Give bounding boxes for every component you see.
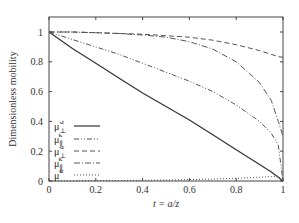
x-tick-label: 0.2 xyxy=(90,184,103,195)
legend-item: μ̃tr xyxy=(54,167,100,181)
y-tick-label: 0.2 xyxy=(31,146,44,157)
series-line-2 xyxy=(49,32,283,57)
series-line-4 xyxy=(49,176,283,181)
y-tick-labels: 00.20.40.60.81 xyxy=(31,27,44,187)
y-axis-label: Dimensionless mobility xyxy=(7,51,18,146)
x-tick-label: 1 xyxy=(281,184,286,195)
x-tick-label: 0.6 xyxy=(183,184,196,195)
y-tick-label: 0 xyxy=(38,176,43,187)
y-tick-label: 0.6 xyxy=(31,86,44,97)
x-axis-label: t = a/z xyxy=(153,198,179,209)
legend: μ̃⊥tμ̃∥tμ̃⊥rμ̃∥rμ̃tr xyxy=(54,118,100,181)
axis-ticks xyxy=(49,17,283,181)
mobility-chart: 00.20.40.60.81 00.20.40.60.81 t = a/z Di… xyxy=(0,0,299,223)
plot-curves xyxy=(49,32,283,181)
x-tick-label: 0.8 xyxy=(230,184,243,195)
y-tick-label: 0.8 xyxy=(31,56,44,67)
plot-frame xyxy=(49,17,283,181)
legend-item: μ̃⊥t xyxy=(54,118,100,135)
x-tick-labels: 00.20.40.60.81 xyxy=(47,184,286,195)
series-line-0 xyxy=(49,32,283,181)
y-tick-label: 0.4 xyxy=(31,116,44,127)
svg-text:μ̃tr: μ̃tr xyxy=(54,167,64,181)
x-tick-label: 0 xyxy=(47,184,52,195)
x-tick-label: 0.4 xyxy=(136,184,149,195)
y-tick-label: 1 xyxy=(38,27,43,38)
